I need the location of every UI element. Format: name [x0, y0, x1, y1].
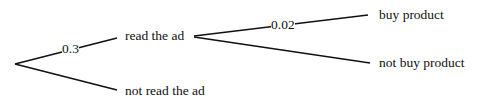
node-not-read-the-ad: not read the ad	[125, 84, 205, 98]
edge-read-not-buy	[194, 37, 370, 63]
node-read-the-ad: read the ad	[125, 29, 184, 43]
node-not-buy-product: not buy product	[379, 56, 465, 70]
edge-root-not-read	[15, 64, 117, 90]
edge-label-0-02: 0.02	[271, 18, 295, 32]
node-buy-product: buy product	[379, 8, 444, 22]
edge-label-0-3: 0.3	[62, 42, 79, 56]
